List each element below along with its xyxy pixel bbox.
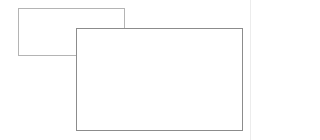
front-window-rectangle	[76, 28, 243, 131]
right-edge-divider	[250, 0, 251, 140]
